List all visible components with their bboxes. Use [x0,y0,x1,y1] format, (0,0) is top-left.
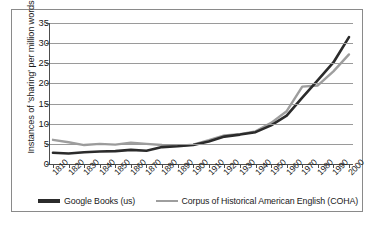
y-tick-mark [46,23,50,24]
y-tick-mark [46,63,50,64]
gridline [49,43,353,44]
y-tick-mark [46,83,50,84]
y-tick-mark [46,124,50,125]
plot-area [49,23,353,164]
y-tick-mark [46,144,50,145]
legend-swatch [38,199,60,202]
gridline [49,144,353,145]
series-lines [49,23,353,164]
gridline [49,83,353,84]
chart-container: Instances of 'sharing' per million words… [11,9,363,212]
legend-swatch [156,200,178,203]
chart-legend: Google Books (us)Corpus of Historical Am… [38,193,358,209]
series-line [53,54,349,145]
y-axis-line [49,23,50,164]
series-line [53,37,349,153]
legend-item: Corpus of Historical American English (C… [156,196,358,206]
y-tick-mark [46,104,50,105]
y-axis-tick-labels: 05101520253035 [25,10,49,211]
gridline [49,124,353,125]
legend-label: Corpus of Historical American English (C… [182,196,358,206]
gridline [49,63,353,64]
y-tick-mark [46,43,50,44]
gridline [49,104,353,105]
legend-label: Google Books (us) [64,196,135,206]
gridline [49,23,353,24]
legend-item: Google Books (us) [38,196,135,206]
